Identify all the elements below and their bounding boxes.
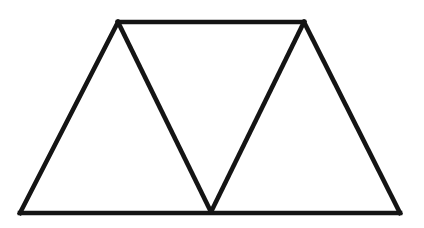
- geometric-figure: [0, 0, 424, 228]
- figure-canvas: [0, 0, 424, 228]
- canvas-background: [0, 0, 424, 228]
